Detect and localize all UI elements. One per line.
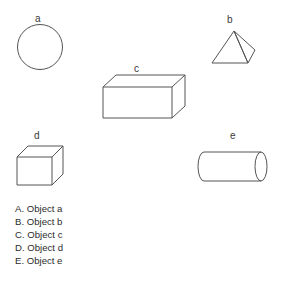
option-e[interactable]: E. Object e bbox=[15, 254, 135, 267]
figure-label-e: e bbox=[230, 131, 236, 141]
option-c[interactable]: C. Object c bbox=[15, 228, 135, 241]
rectangular-box-icon bbox=[100, 70, 180, 124]
circle-icon bbox=[16, 23, 64, 71]
answer-options-list: A. Object a B. Object b C. Object c D. O… bbox=[15, 202, 135, 267]
figure-pyramid-b[interactable] bbox=[206, 26, 260, 68]
figure-label-b: b bbox=[227, 15, 233, 25]
cube-icon bbox=[14, 140, 60, 190]
figure-circle-a[interactable] bbox=[16, 23, 64, 71]
option-a[interactable]: A. Object a bbox=[15, 202, 135, 215]
pyramid-icon bbox=[206, 26, 260, 68]
geometry-figure-question: a b c d e bbox=[0, 0, 281, 282]
figure-cylinder-e[interactable] bbox=[194, 145, 268, 187]
figure-cube-d[interactable] bbox=[14, 140, 60, 190]
option-b[interactable]: B. Object b bbox=[15, 215, 135, 228]
option-d[interactable]: D. Object d bbox=[15, 241, 135, 254]
cylinder-icon bbox=[194, 145, 268, 187]
figure-rectangular-box-c[interactable] bbox=[100, 70, 180, 124]
